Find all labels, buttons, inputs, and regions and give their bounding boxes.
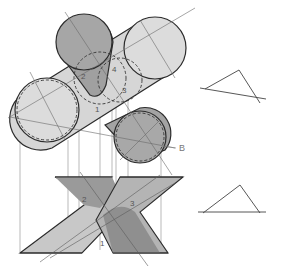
label-front-point-1: 1 (100, 239, 105, 248)
cylinder-end-circle-right (124, 17, 186, 79)
cylinder-end-circle-left (15, 78, 79, 142)
auxiliary-triangle-top (200, 70, 266, 103)
label-axis-b: B (179, 143, 185, 153)
label-point-4: 4 (112, 65, 117, 74)
label-point-1: 1 (95, 105, 100, 114)
diagram-canvas: 2 4 3 1 B 2 3 1 (0, 0, 281, 276)
label-front-point-3: 3 (130, 199, 135, 208)
label-front-point-2: 2 (82, 195, 87, 204)
label-point-3: 3 (122, 86, 127, 95)
cylinder-intersection-diagram: 2 4 3 1 B 2 3 1 (0, 0, 281, 276)
cylinder-end-circle-bottom (114, 111, 166, 163)
label-point-2: 2 (81, 72, 86, 81)
auxiliary-triangle-bottom (198, 185, 266, 213)
